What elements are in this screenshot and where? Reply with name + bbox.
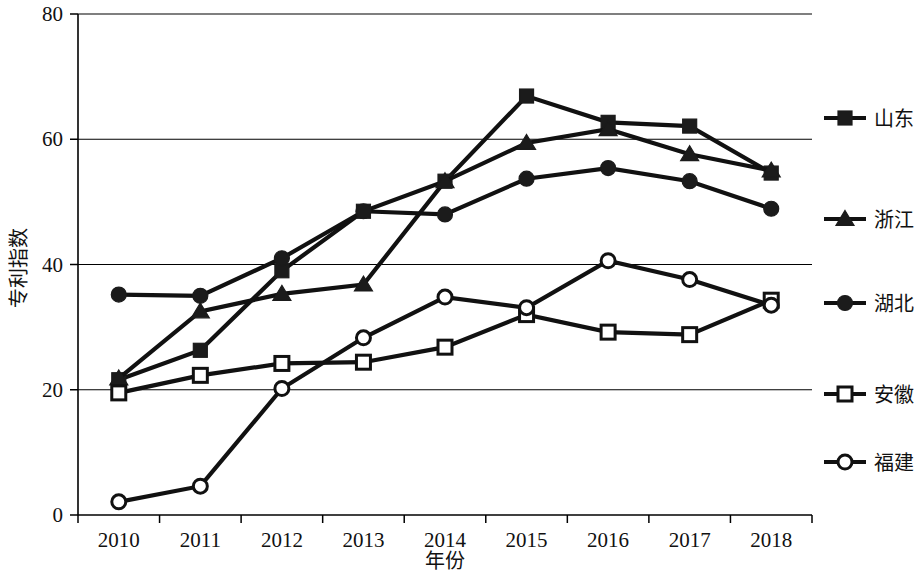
data-point-marker [520, 301, 534, 315]
data-point-marker [356, 204, 371, 219]
data-point-marker [193, 343, 207, 357]
data-point-marker [601, 325, 615, 339]
x-tick-label: 2015 [506, 528, 548, 552]
x-tick-label: 2018 [750, 528, 792, 552]
data-point-marker [838, 455, 852, 469]
data-point-marker [520, 89, 534, 103]
data-point-marker [683, 273, 697, 287]
x-tick-label: 2013 [342, 528, 384, 552]
data-point-marker [838, 387, 852, 401]
data-point-marker [193, 288, 208, 303]
data-point-marker [683, 328, 697, 342]
y-tick-label: 60 [42, 127, 63, 151]
data-point-marker [438, 340, 452, 354]
x-tick-label: 2011 [180, 528, 221, 552]
y-axis-title: 专利指数 [8, 228, 30, 308]
legend-item-label: 安徽 [874, 384, 914, 406]
data-point-marker [764, 201, 779, 216]
data-point-marker [838, 296, 853, 311]
x-axis-tick-labels: 201020112012201320142015201620172018 [98, 528, 792, 552]
data-point-marker [683, 119, 697, 133]
data-point-marker [275, 381, 289, 395]
data-point-marker [193, 368, 207, 382]
y-tick-label: 40 [42, 253, 63, 277]
data-point-marker [111, 287, 126, 302]
data-point-marker [356, 355, 370, 369]
y-tick-label: 80 [42, 2, 63, 26]
x-tick-label: 2017 [669, 528, 711, 552]
data-point-marker [438, 290, 452, 304]
x-tick-label: 2010 [98, 528, 140, 552]
data-point-marker [438, 207, 453, 222]
x-axis-title: 年份 [425, 550, 465, 572]
data-point-marker [601, 254, 615, 268]
data-point-marker [838, 111, 852, 125]
data-point-marker [274, 251, 289, 266]
legend-item-label: 湖北 [874, 293, 914, 315]
data-point-marker [112, 495, 126, 509]
x-tick-label: 2014 [424, 528, 467, 552]
data-point-marker [601, 161, 616, 176]
data-point-marker [519, 171, 534, 186]
data-point-marker [193, 479, 207, 493]
data-point-marker [275, 356, 289, 370]
x-tick-label: 2012 [261, 528, 303, 552]
legend-item-label: 浙江 [874, 209, 914, 231]
data-point-marker [682, 174, 697, 189]
data-point-marker [356, 331, 370, 345]
legend-item-label: 福建 [874, 452, 914, 474]
y-tick-label: 0 [53, 503, 64, 527]
legend-item-label: 山东 [874, 108, 914, 130]
x-tick-label: 2016 [587, 528, 629, 552]
data-point-marker [112, 386, 126, 400]
chart-canvas: 020406080 201020112012201320142015201620… [0, 0, 919, 574]
y-tick-label: 20 [42, 378, 63, 402]
patent-index-line-chart: 020406080 201020112012201320142015201620… [0, 0, 919, 574]
chart-background [0, 0, 919, 574]
data-point-marker [764, 298, 778, 312]
